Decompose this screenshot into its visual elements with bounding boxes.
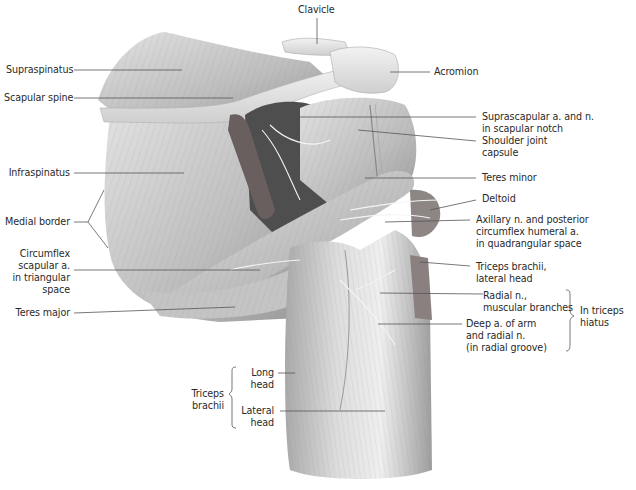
label-lateral-head: Lateral head bbox=[234, 405, 274, 429]
label-scapular-spine: Scapular spine bbox=[4, 92, 70, 104]
label-triceps-lateral-head-top: Triceps brachii, lateral head bbox=[476, 261, 546, 285]
label-teres-minor: Teres minor bbox=[482, 172, 537, 184]
label-triceps-hiatus: In triceps hiatus bbox=[580, 305, 624, 329]
label-teres-major: Teres major bbox=[4, 307, 70, 319]
label-infraspinatus: Infraspinatus bbox=[6, 167, 70, 179]
label-circumflex-scapular: Circumflex scapular a. in triangular spa… bbox=[4, 248, 70, 296]
label-medial-border: Medial border bbox=[4, 216, 70, 228]
label-long-head: Long head bbox=[238, 367, 274, 391]
label-deep-artery: Deep a. of arm and radial n. (in radial … bbox=[466, 318, 547, 354]
deltoid-cut bbox=[410, 190, 440, 237]
label-acromion: Acromion bbox=[434, 66, 478, 78]
label-triceps-brachii-group: Triceps brachii bbox=[180, 388, 224, 412]
label-supraspinatus: Supraspinatus bbox=[6, 64, 70, 76]
label-suprascapular: Suprascapular a. and n. in scapular notc… bbox=[482, 111, 594, 135]
label-radial-branches: Radial n., muscular branches bbox=[483, 290, 573, 314]
label-deltoid: Deltoid bbox=[482, 193, 516, 205]
label-axillary: Axillary n. and posterior circumflex hum… bbox=[476, 214, 589, 250]
label-clavicle: Clavicle bbox=[298, 4, 335, 16]
arm bbox=[285, 230, 432, 479]
label-shoulder-capsule: Shoulder joint capsule bbox=[482, 135, 547, 159]
